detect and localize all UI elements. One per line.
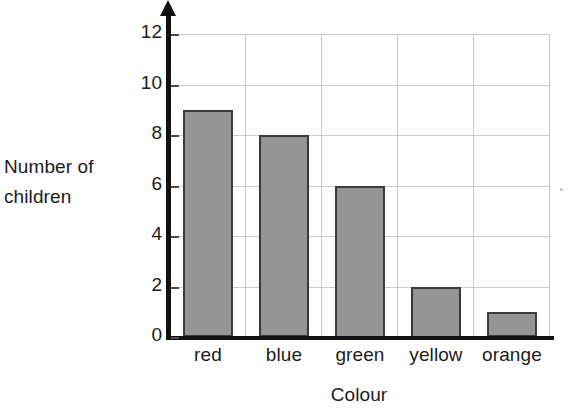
scan-artifact-speck <box>560 188 563 191</box>
bar-blue <box>259 135 309 337</box>
y-tick-0 <box>171 337 179 339</box>
bar-green <box>335 186 385 338</box>
bar-orange <box>487 312 537 337</box>
y-tick-12 <box>171 34 179 36</box>
y-tick-label-4: 4 <box>128 223 162 245</box>
bar-yellow <box>411 287 461 338</box>
y-axis-title-line-1: Number of <box>4 152 136 182</box>
y-tick-4 <box>171 236 179 238</box>
x-axis-title: Colour <box>295 384 423 406</box>
x-axis-line <box>166 336 554 340</box>
gridline-h-10 <box>170 85 550 86</box>
y-tick-2 <box>171 287 179 289</box>
x-label-yellow: yellow <box>398 344 474 366</box>
x-label-red: red <box>170 344 246 366</box>
y-tick-8 <box>171 135 179 137</box>
bar-red <box>183 110 233 337</box>
gridline-v-1 <box>245 34 246 337</box>
gridline-v-5 <box>549 34 550 337</box>
y-tick-label-2: 2 <box>128 274 162 296</box>
x-label-orange: orange <box>474 344 550 366</box>
y-tick-10 <box>171 85 179 87</box>
x-label-green: green <box>322 344 398 366</box>
y-tick-6 <box>171 186 179 188</box>
y-axis-line <box>166 8 171 340</box>
gridline-v-4 <box>473 34 474 337</box>
bar-chart-figure: Number of children 024681012 redbluegree… <box>0 0 577 415</box>
y-axis-title-line-2: children <box>4 182 136 212</box>
y-tick-label-6: 6 <box>128 173 162 195</box>
y-tick-label-12: 12 <box>128 21 162 43</box>
gridline-v-2 <box>321 34 322 337</box>
x-label-blue: blue <box>246 344 322 366</box>
y-tick-label-0: 0 <box>128 324 162 346</box>
gridline-h-12 <box>170 34 550 35</box>
plot-area <box>170 34 550 337</box>
gridline-v-3 <box>397 34 398 337</box>
y-axis-title: Number of children <box>4 152 136 212</box>
y-axis-arrow-icon <box>160 0 176 16</box>
y-tick-label-8: 8 <box>128 122 162 144</box>
y-tick-label-10: 10 <box>128 72 162 94</box>
